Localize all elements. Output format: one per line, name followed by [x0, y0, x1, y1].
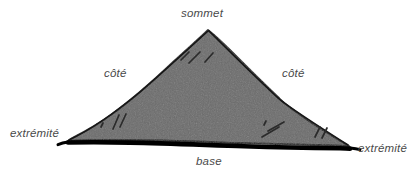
label-base: base — [196, 156, 222, 168]
triangle-body-group — [68, 30, 349, 146]
triangle-shape — [68, 30, 349, 146]
triangle-figure-svg — [0, 0, 419, 175]
label-sommet: sommet — [181, 8, 223, 20]
label-cote-left: côté — [104, 68, 127, 80]
label-extremite-left: extrémité — [10, 128, 59, 140]
label-cote-right: côté — [282, 68, 305, 80]
label-extremite-right: extrémité — [358, 143, 407, 155]
